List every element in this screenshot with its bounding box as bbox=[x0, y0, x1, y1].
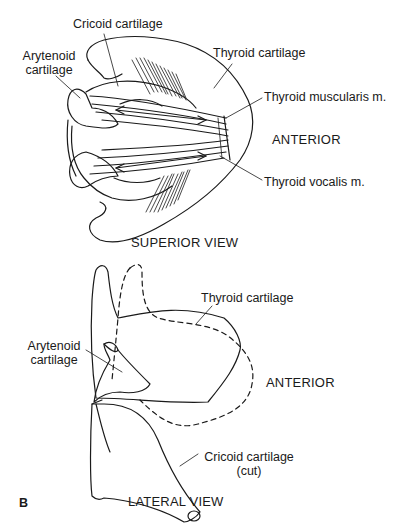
label-cricoid-cartilage: Cricoid cartilage bbox=[73, 17, 163, 31]
label-arytenoid-cartilage: Arytenoid cartilage bbox=[16, 49, 82, 77]
label-thyroid-vocalis: Thyroid vocalis m. bbox=[264, 175, 365, 189]
superior-view-title: SUPERIOR VIEW bbox=[131, 236, 238, 250]
label-anterior-lateral: ANTERIOR bbox=[266, 376, 335, 390]
lateral-thyroid-solid bbox=[91, 266, 240, 403]
leader-lateral-arytenoid bbox=[86, 350, 122, 372]
label-lateral-cricoid-line1: Cricoid cartilage bbox=[196, 450, 302, 464]
leader-muscularis bbox=[226, 98, 262, 118]
lateral-thyroid-dashed bbox=[112, 268, 130, 380]
label-arytenoid-line2: cartilage bbox=[16, 63, 82, 77]
label-lateral-cricoid-line2: (cut) bbox=[196, 464, 302, 478]
label-lateral-thyroid-cartilage: Thyroid cartilage bbox=[201, 291, 293, 305]
label-lateral-arytenoid-line1: Arytenoid bbox=[21, 339, 87, 353]
label-lateral-cricoid-cartilage: Cricoid cartilage (cut) bbox=[196, 450, 302, 478]
label-arytenoid-line1: Arytenoid bbox=[16, 49, 82, 63]
superior-thyroid-notch bbox=[88, 60, 122, 79]
superior-cricoid-ring bbox=[86, 81, 196, 108]
lateral-view-title: LATERAL VIEW bbox=[128, 495, 224, 509]
label-thyroid-cartilage: Thyroid cartilage bbox=[213, 46, 305, 60]
larynx-illustration bbox=[0, 0, 414, 526]
label-thyroid-muscularis: Thyroid muscularis m. bbox=[264, 90, 386, 104]
superior-arytenoid-upper bbox=[68, 89, 118, 128]
label-lateral-arytenoid-line2: cartilage bbox=[21, 353, 87, 367]
leader-lateral-thyroid bbox=[196, 306, 212, 324]
superior-view-drawing bbox=[56, 34, 262, 242]
leader-thyroid bbox=[214, 64, 232, 88]
leader-arytenoid bbox=[56, 76, 80, 98]
superior-thyroid-outline bbox=[87, 37, 253, 243]
panel-letter: B bbox=[19, 496, 28, 510]
label-anterior-superior: ANTERIOR bbox=[272, 133, 341, 147]
label-lateral-arytenoid-cartilage: Arytenoid cartilage bbox=[21, 339, 87, 367]
